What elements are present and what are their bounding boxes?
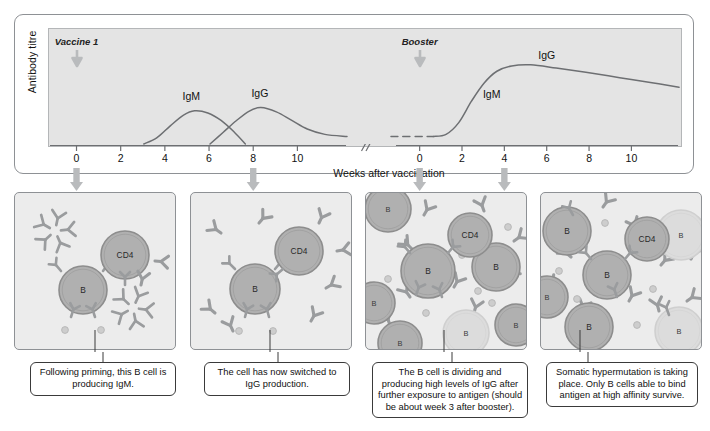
event-label-vaccine-1: Vaccine 1 [55, 36, 98, 47]
connector-arrow-panel-2 [247, 168, 260, 191]
svg-text:B: B [386, 205, 391, 214]
connector-arrow-panel-1 [70, 168, 83, 191]
curve-label-igg: IgG [251, 87, 268, 99]
igg-antibody-icon [254, 209, 272, 227]
antigen-dot-icon [650, 286, 657, 293]
b-cell: B [541, 276, 568, 318]
svg-text:CD4: CD4 [117, 250, 134, 260]
leader-line-panel-1 [95, 330, 103, 362]
curve-label-igm: IgM [183, 90, 201, 102]
bcr-receptor-icon [222, 256, 238, 272]
leader-line-panel-3 [444, 330, 452, 362]
curve-label-igm-secondary-annotation: IgM [483, 88, 501, 100]
antigen-dot-icon [423, 310, 430, 317]
svg-text:B: B [372, 299, 377, 308]
panel-3-caption: The B cell is dividing and producing hig… [372, 362, 528, 418]
cd4-cell: CD4 [625, 217, 669, 261]
panel-2-caption: The cell has now switched to IgG product… [204, 362, 350, 396]
svg-text:B: B [425, 266, 431, 276]
panel-connector-arrows [0, 160, 710, 196]
connector-arrow-panel-3 [413, 168, 426, 191]
igg-antibody-icon [474, 197, 490, 213]
antibody-titre-chart: Antibody titre 02468100246810 IgMIgGIgGI… [14, 14, 696, 184]
figure-root: Antibody titre 02468100246810 IgMIgGIgGI… [0, 0, 710, 431]
chart-y-axis-label: Antibody titre [26, 2, 38, 122]
igg-antibody-icon [419, 201, 436, 218]
panel-1[interactable]: BCD4 [14, 192, 176, 350]
igg-antibody-icon [336, 243, 351, 257]
panel-4[interactable]: BBBBCD4BB [540, 192, 702, 350]
igg-antibody-icon [684, 289, 701, 306]
antigen-dot-icon [602, 220, 609, 227]
cd4-cell: CD4 [101, 231, 149, 279]
igm-pentamer-icon [105, 281, 160, 335]
svg-text:B: B [679, 231, 684, 240]
igg-antibody-icon [323, 276, 340, 293]
antigen-dot-icon [574, 296, 581, 303]
igg-antibody-icon [207, 221, 225, 238]
cd4-cell: CD4 [448, 213, 492, 257]
b-cell: B [366, 282, 395, 324]
b-cell: B [230, 264, 280, 314]
event-arrow-icon [70, 50, 84, 68]
bcr-receptor-icon [49, 258, 65, 274]
b-cell: B [543, 207, 591, 255]
panel-1-caption: Following priming, this B cell is produc… [30, 362, 176, 396]
svg-text:B: B [80, 285, 86, 295]
antigen-dot-icon [475, 288, 482, 295]
b-cell: B [59, 266, 107, 314]
svg-text:B: B [493, 262, 499, 272]
igg-antibody-icon [314, 209, 330, 226]
igm-pentamer-icon [30, 207, 80, 255]
caption-leader-lines [0, 330, 710, 366]
svg-text:CD4: CD4 [639, 234, 656, 244]
connector-arrow-panel-4 [498, 168, 511, 191]
chart-plot-area [48, 28, 682, 147]
svg-text:CD4: CD4 [291, 246, 308, 256]
antigen-dot-icon [489, 300, 496, 307]
curve-label-igg-secondary: IgG [538, 49, 555, 61]
panel-2[interactable]: BCD4 [190, 192, 352, 350]
igg-antibody-icon [154, 255, 168, 268]
panel-3[interactable]: BBBBBBCD4B [365, 192, 527, 350]
svg-text:B: B [564, 226, 570, 236]
chart-x-axis [44, 144, 694, 160]
b-cell: B [366, 193, 411, 232]
antigen-dot-icon [505, 224, 512, 231]
event-arrow-icon [413, 50, 427, 68]
igg-antibody-icon [201, 300, 219, 318]
event-label-booster: Booster [402, 36, 438, 47]
leader-line-panel-2 [270, 330, 278, 362]
antigen-dot-icon [385, 276, 392, 283]
igg-antibody-icon [511, 229, 526, 246]
antigen-dot-icon [556, 268, 563, 275]
cd4-cell: CD4 [275, 227, 323, 275]
svg-text:B: B [252, 284, 258, 294]
svg-text:B: B [545, 293, 550, 302]
svg-text:B: B [514, 321, 519, 330]
svg-text:B: B [604, 270, 610, 280]
antigen-dot-icon [634, 322, 641, 329]
leader-line-panel-4 [580, 330, 588, 362]
panel-4-caption: Somatic hypermutation is taking place. O… [546, 362, 698, 407]
chart-curves [49, 29, 681, 146]
igg-antibody-icon [306, 307, 323, 324]
svg-text:CD4: CD4 [462, 230, 479, 240]
